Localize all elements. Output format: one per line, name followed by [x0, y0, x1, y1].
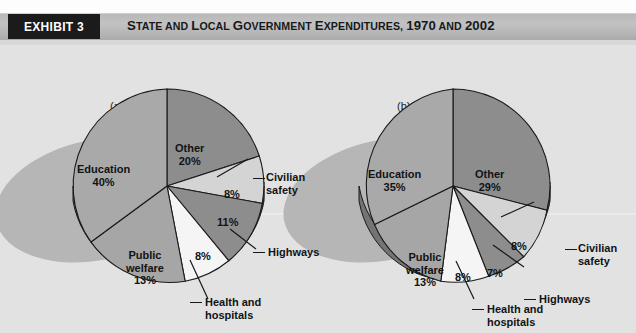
pie-a-label-public-welfare: Public welfare 13% — [126, 249, 164, 287]
title-part-5: G — [233, 18, 243, 33]
pie-b-label-health-hospitals: Health and hospitals — [487, 303, 543, 328]
pie-a-label-health-hospitals: Health and hospitals — [205, 296, 261, 321]
pie-b-label-public-welfare: Public welfare 13% — [406, 251, 444, 289]
pie-b-label-other: Other 29% — [475, 168, 504, 193]
title-part-4: OCAL — [200, 20, 233, 32]
title-part-9: 1970 — [406, 18, 436, 33]
pie-b-value-health-hospitals: 8% — [455, 271, 471, 284]
pie-b-label-education-value: 35% — [384, 181, 406, 193]
pie-a-label-education: Education 40% — [77, 163, 130, 188]
title-part-6: OVERNMENT — [243, 20, 315, 32]
pie-a-label-welfare-line2: welfare — [126, 262, 164, 274]
charts-panel: (a) 1970 expenditures (b) 2002 expenditu… — [0, 45, 636, 333]
top-white-strip — [0, 0, 636, 13]
pie-a-label-welfare-line1: Public — [128, 249, 161, 261]
pie-b-label-welfare-line2: welfare — [406, 264, 444, 276]
pie-b-label-civilian-safety: Civilian safety — [578, 242, 617, 267]
pie-b-label-other-name: Other — [475, 168, 504, 180]
pie-a-label-welfare-value: 13% — [134, 274, 156, 286]
pie-b-label-other-value: 29% — [479, 181, 501, 193]
title-part-11: 2002 — [465, 18, 495, 33]
pie-b-label-civilian-safety-line1: Civilian — [578, 242, 617, 254]
pie-b-label-welfare-line1: Public — [408, 251, 441, 263]
pie-a-value-civilian-safety: 8% — [224, 188, 240, 201]
pie-b-label-highways: Highways — [539, 293, 590, 306]
pie-a-label-civilian-safety-line1: Civilian — [266, 171, 305, 183]
exhibit-number-tab: EXHIBIT 3 — [8, 14, 100, 39]
pie-b-tick-civilian-safety — [565, 249, 577, 250]
pie-b-label-education: Education 35% — [368, 168, 421, 193]
pie-a-label-other-value: 20% — [179, 155, 201, 167]
pie-a-label-other: Other 20% — [175, 142, 204, 167]
pie-b-label-health-line1: Health and — [487, 303, 543, 315]
pie-a-label-civilian-safety: Civilian safety — [266, 171, 305, 196]
pie-a-value-highways: 11% — [217, 216, 238, 229]
pie-a-tick-health — [190, 302, 202, 303]
title-part-8: XPENDITURES, — [324, 20, 407, 32]
pie-a-tick-highways — [253, 252, 265, 253]
title-part-10: AND — [436, 20, 465, 32]
exhibit-title: STATE AND LOCAL GOVERNMENT EXPENDITURES,… — [127, 18, 495, 33]
title-part-3: L — [191, 18, 199, 33]
pie-b-tick-health — [472, 309, 484, 310]
pie-a-tick-civilian-safety — [253, 178, 265, 179]
pie-a-label-health-line1: Health and — [205, 296, 261, 308]
title-part-2: TATE AND — [136, 20, 191, 32]
pie-a-label-health-line2: hospitals — [205, 309, 253, 321]
pie-a-label-education-value: 40% — [93, 176, 115, 188]
pie-b-value-civilian-safety: 8% — [511, 240, 527, 253]
pie-b-tick-highways — [524, 299, 536, 300]
pie-a-label-highways: Highways — [268, 246, 319, 259]
pie-b-label-education-name: Education — [368, 168, 421, 180]
title-part-1: S — [127, 18, 136, 33]
pie-a-label-civilian-safety-line2: safety — [266, 184, 298, 196]
pie-b-value-highways: 7% — [487, 267, 503, 280]
exhibit-figure: EXHIBIT 3 STATE AND LOCAL GOVERNMENT EXP… — [0, 0, 636, 333]
title-part-7: E — [315, 18, 324, 33]
pie-a-label-other-name: Other — [175, 142, 204, 154]
pie-b-label-civilian-safety-line2: safety — [578, 255, 610, 267]
exhibit-number-label: EXHIBIT 3 — [24, 20, 84, 34]
pie-a-label-education-name: Education — [77, 163, 130, 175]
pie-b-label-welfare-value: 13% — [414, 276, 436, 288]
pie-a-value-health-hospitals: 8% — [195, 250, 211, 263]
pie-b-label-health-line2: hospitals — [487, 316, 535, 328]
